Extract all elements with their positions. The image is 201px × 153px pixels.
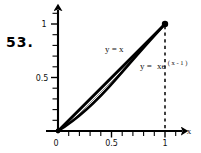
- graph-svg: 1 0.5 0 0.5 1 x y = x y = xe ( x - 1 ): [0, 0, 201, 153]
- curve-label-exponent: ( x - 1 ): [168, 59, 188, 67]
- svg-text:y = xe ( x - 1: y = xe ( x - 1 ): [140, 59, 187, 71]
- x-tick-label-0-5: 0.5: [105, 139, 118, 148]
- y-tick-label-1: 1: [41, 20, 46, 29]
- x-tick-label-1: 1: [162, 139, 167, 148]
- intersection-point-marker: [162, 21, 168, 27]
- figure-container: 53.: [0, 0, 201, 153]
- y-tick-label-0-5: 0.5: [36, 74, 49, 83]
- curve-label-xe-pow-x-minus-1: y = xe ( x - 1 ): [140, 59, 187, 71]
- x-axis-label: x: [187, 126, 192, 136]
- curve-label-y-equals-x: y = x: [105, 44, 124, 54]
- curve-label-base: xe: [157, 61, 166, 71]
- origin-point-marker: [56, 129, 61, 134]
- curve-label-lhs: y =: [140, 61, 152, 71]
- x-origin-label: 0: [53, 139, 58, 148]
